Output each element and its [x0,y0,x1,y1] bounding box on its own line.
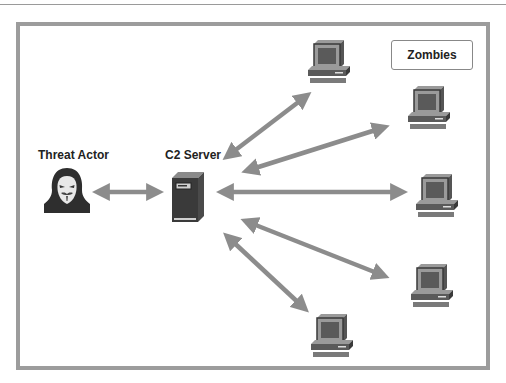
arrow-c2-zombie-2 [249,128,382,170]
arrow-c2-zombie-1 [229,97,305,155]
arrow-c2-zombie-4 [248,222,382,275]
zombie-computer-icon-5 [307,312,357,360]
zombie-computer-icon-4 [407,262,457,310]
hacker-icon [42,166,92,214]
zombie-computer-icon-3 [412,172,462,220]
arrow-c2-zombie-5 [229,238,303,307]
zombie-computer-icon-1 [304,38,354,86]
zombie-computer-icon-2 [404,84,454,132]
server-icon [168,170,208,224]
